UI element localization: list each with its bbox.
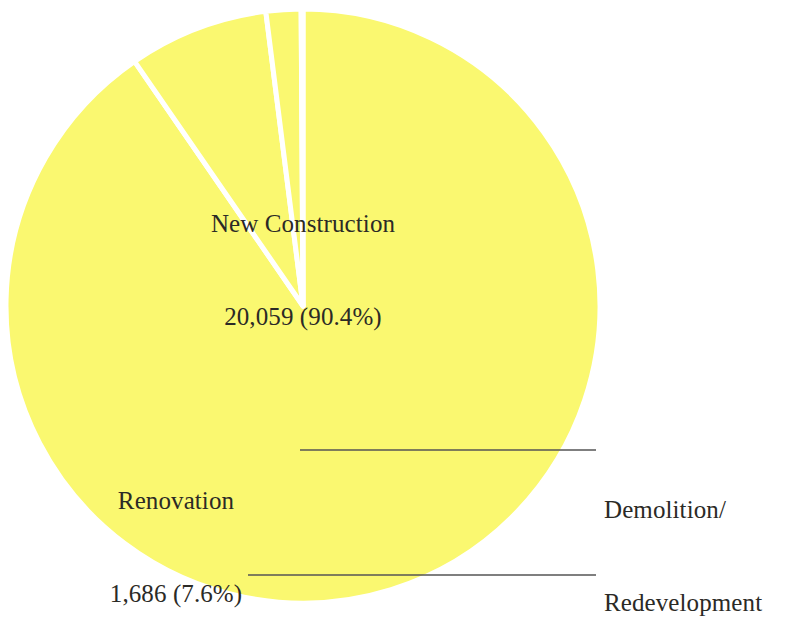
- slice-label-renovation: Renovation 1,686 (7.6%): [56, 423, 296, 623]
- slice-label-renovation-name: Renovation: [56, 485, 296, 516]
- pie-chart: New Construction 20,059 (90.4%) Renovati…: [0, 0, 786, 623]
- slice-label-na: N/A 13 (0.1%): [604, 558, 774, 623]
- slice-label-new-construction-name: New Construction: [138, 208, 468, 239]
- slice-label-demolition-name-line1: Demolition/: [604, 494, 786, 525]
- slice-label-renovation-value: 1,686 (7.6%): [56, 578, 296, 609]
- slice-label-new-construction: New Construction 20,059 (90.4%): [138, 146, 468, 394]
- slice-label-new-construction-value: 20,059 (90.4%): [138, 301, 468, 332]
